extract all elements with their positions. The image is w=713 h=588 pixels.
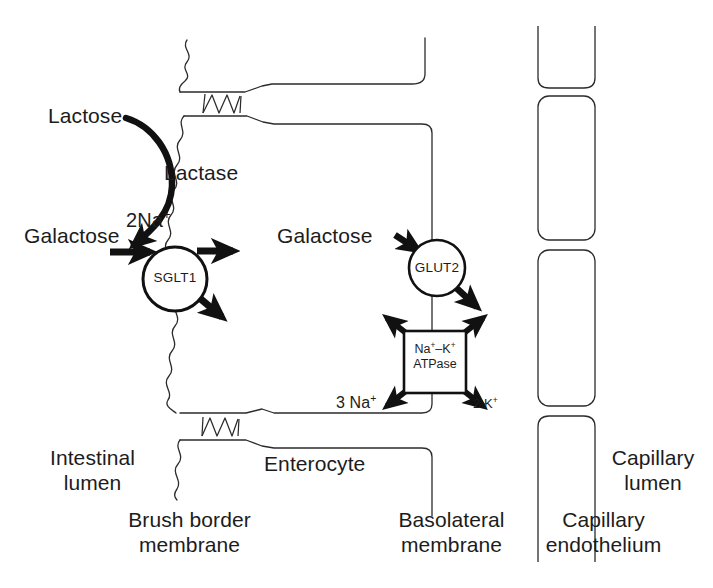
label-atpase-line2: ATPase: [404, 357, 466, 372]
label-capillary-lumen: Capillary lumen: [600, 446, 706, 496]
label-brush-border-line2: membrane: [102, 533, 277, 558]
label-2k-charge: +: [493, 395, 498, 405]
label-capillary-endothelium: Capillary endothelium: [521, 508, 686, 558]
label-3na-charge: +: [370, 392, 376, 404]
label-basolateral-membrane: Basolateral membrane: [383, 508, 520, 558]
capillary-endothelium: [538, 26, 595, 562]
label-capillary-endothelium-line1: Capillary: [521, 508, 686, 533]
label-intestinal-lumen-line1: Intestinal: [20, 446, 165, 471]
endothelial-cell-top: [538, 26, 595, 88]
label-intestinal-lumen: Intestinal lumen: [20, 446, 165, 496]
label-3na: 3 Na+: [336, 392, 376, 413]
label-3na-text: 3 Na: [336, 394, 370, 411]
label-2k-text: 2 K: [473, 396, 493, 411]
glut2-inbound-arrow: [395, 235, 418, 250]
label-2k: 2 K+: [473, 395, 498, 412]
label-lactose: Lactose: [48, 104, 122, 129]
label-atpase-line1: Na+–K+: [404, 341, 466, 357]
label-2na-charge: +: [163, 207, 171, 222]
label-capillary-lumen-line2: lumen: [600, 471, 706, 496]
endothelial-cell-middle: [538, 96, 595, 240]
diagram-canvas: Lactose Lactase Galactose 2Na+ Galactose…: [0, 0, 713, 588]
label-capillary-endothelium-line2: endothelium: [521, 533, 686, 558]
label-intestinal-lumen-line2: lumen: [20, 471, 165, 496]
label-basolateral-line1: Basolateral: [383, 508, 520, 533]
brush-border-wave-bottom: [166, 302, 177, 413]
tight-junction-bottom: [202, 417, 239, 436]
label-brush-border-membrane: Brush border membrane: [102, 508, 277, 558]
label-sglt1: SGLT1: [148, 270, 202, 286]
label-capillary-lumen-line1: Capillary: [600, 446, 706, 471]
label-brush-border-line1: Brush border: [102, 508, 277, 533]
label-na-k-atpase: Na+–K+ ATPase: [404, 341, 466, 373]
tight-junction-top: [203, 94, 241, 113]
label-galactose-cell: Galactose: [277, 224, 372, 249]
label-2na: 2Na+: [126, 207, 171, 232]
enterocyte-upper-cell: [180, 38, 425, 92]
brush-border-lower-wave: [175, 440, 181, 500]
endothelial-cell-lower: [538, 250, 595, 406]
label-basolateral-line2: membrane: [383, 533, 520, 558]
label-glut2: GLUT2: [407, 260, 467, 276]
label-enterocyte: Enterocyte: [264, 452, 365, 477]
brush-border-upper-wave: [179, 40, 189, 92]
label-lactase: Lactase: [164, 161, 238, 186]
label-galactose-lumen: Galactose: [24, 224, 119, 249]
enterocyte-upper-apical-edge: [180, 38, 425, 92]
diagram-svg: [0, 0, 713, 588]
label-2na-text: 2Na: [126, 209, 163, 231]
